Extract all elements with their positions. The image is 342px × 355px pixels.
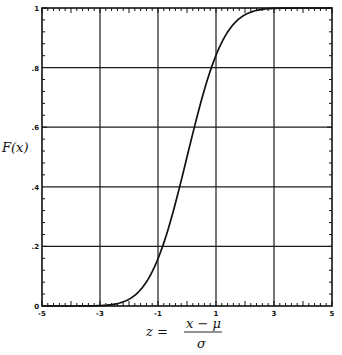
y-axis-title: F(x) <box>1 140 29 155</box>
x-tick-label: 5 <box>330 310 335 318</box>
cdf-chart: -5-3-1135 0.2.4.6.81 F(x) z = x − μ σ <box>0 0 342 355</box>
x-axis-title-denominator: σ <box>197 336 207 351</box>
y-tick-label: .2 <box>31 243 39 251</box>
x-axis-title-lhs: z = <box>145 324 168 339</box>
y-tick-label: 1 <box>34 5 39 13</box>
y-tick-labels: 0.2.4.6.81 <box>31 5 39 311</box>
y-tick-label: .8 <box>31 65 39 73</box>
x-tick-label: -3 <box>96 310 104 318</box>
y-tick-label: 0 <box>34 303 39 311</box>
cdf-curve <box>42 8 332 306</box>
x-tick-label: 3 <box>272 310 277 318</box>
x-tick-label: -5 <box>38 310 46 318</box>
x-axis-title-numerator: x − μ <box>186 316 221 331</box>
x-tick-label: -1 <box>154 310 162 318</box>
y-tick-label: .6 <box>31 124 39 132</box>
x-axis-title: z = x − μ σ <box>145 316 222 351</box>
y-tick-label: .4 <box>31 184 39 192</box>
